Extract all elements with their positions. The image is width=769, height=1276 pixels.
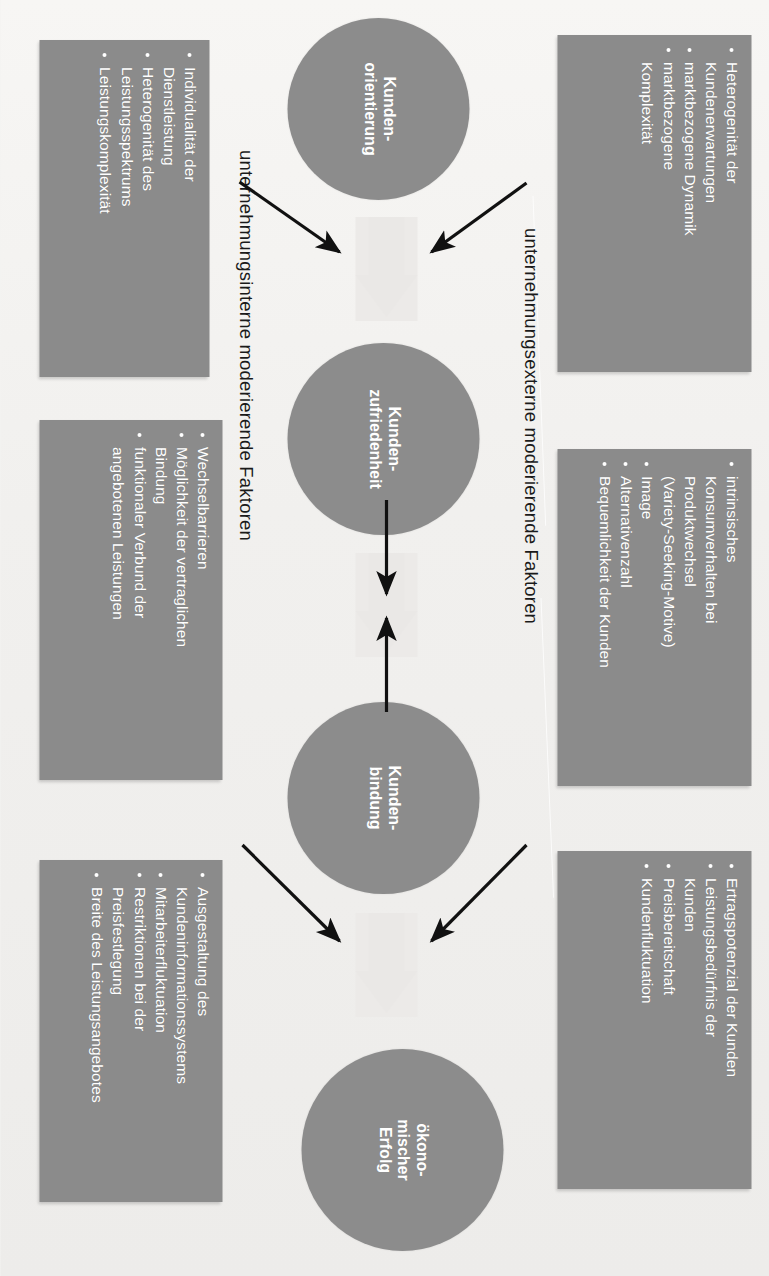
bullet-icon (187, 53, 191, 57)
factor-text: Heterogenität des (139, 67, 156, 191)
list-item: angebotenen Leistungen (107, 430, 127, 768)
circle-oekonomischer-erfolg: ökono- mischer Erfolg (301, 1049, 503, 1251)
factor-text: angebotenen Leistungen (109, 447, 126, 620)
factor-text: Leistungskomplexität (96, 67, 113, 214)
list-item: Heterogenität der (721, 45, 741, 360)
factor-text: Produktwechsel (681, 476, 698, 587)
block-arrow-bindung-to-erfolg (355, 913, 417, 1017)
bullet-icon (729, 864, 733, 868)
list-item: Ertragspotenzial der Kunden (721, 861, 741, 1177)
factor-text: Individualität der (181, 67, 198, 182)
block-arrow-shaft (368, 913, 404, 977)
list-item: Leistungskomplexität (94, 50, 114, 365)
list-item: Wechselbarrieren (192, 430, 212, 768)
block-arrow-head (355, 971, 417, 1013)
caption-internal-factors: unternehmungsinterne moderierende Faktor… (234, 150, 256, 541)
external-factor-list: Ertragspotenzial der Kunden Leistungsbed… (635, 861, 741, 1177)
factor-text: Image (638, 476, 655, 520)
factor-text: Alternativenzahl (617, 476, 634, 588)
bullet-icon (708, 864, 712, 868)
circle-label-line: zufriedenheit (364, 389, 383, 489)
factor-text: Wechselbarrieren (194, 447, 211, 570)
factor-text: Ertragspotenzial der Kunden (723, 878, 740, 1077)
circle-label-line: bindung (364, 766, 383, 831)
factor-text: Breite des Leistungsangebotes (88, 887, 105, 1103)
circle-label: Kunden- bindung (364, 766, 402, 831)
list-item: Möglichkeit der vertraglichen (171, 430, 191, 768)
block-arrow-shaft (368, 553, 404, 617)
bullet-icon (729, 462, 733, 466)
factor-text: Restriktionen bei der (131, 887, 148, 1031)
factor-text: (Variety-Seeking-Motive) (660, 476, 677, 648)
bullet-icon (666, 864, 670, 868)
list-item: Konsumverhalten bei (700, 459, 720, 774)
factor-text: Dienstleistung (160, 67, 177, 166)
external-factors-box-kundenorientierung: Heterogenität der Kundenerwartungen mark… (557, 35, 751, 372)
factor-text: Möglichkeit der vertraglichen (173, 447, 190, 647)
block-arrow-zufriedenheit-to-bindung (355, 553, 417, 657)
bullet-icon (602, 462, 606, 466)
list-item: marktbezogene (657, 45, 677, 360)
factor-text: Bindung (152, 447, 169, 505)
list-item: Kundenerwartungen (700, 45, 720, 360)
circle-kundenzufriedenheit: Kunden- zufriedenheit (287, 343, 479, 535)
list-item: Kundeninformationssystems (171, 870, 191, 1190)
list-item: Preisfestlegung (107, 870, 127, 1190)
bullet-icon (666, 48, 670, 52)
list-item: Dienstleistung (158, 50, 178, 365)
bullet-icon (687, 48, 691, 52)
list-item: Bequemlichkeit der Kunden (594, 459, 614, 774)
list-item: Leistungsspektrums (115, 50, 135, 365)
external-factors-box-kundenbindung: Ertragspotenzial der Kunden Leistungsbed… (557, 851, 751, 1189)
external-factors-box-kundenzufriedenheit: intrinsisches Konsumverhalten bei Produk… (557, 449, 751, 786)
circle-label: ökono- mischer Erfolg (374, 1119, 431, 1180)
factor-text: Kundeninformationssystems (173, 887, 190, 1084)
circle-label-line: ökono- (411, 1119, 430, 1180)
bullet-icon (94, 873, 98, 877)
factor-text: Leistungsspektrums (118, 67, 135, 207)
circle-kundenorientierung: Kunden- orientierung (287, 18, 469, 200)
factor-text: Kundenerwartungen (702, 62, 719, 203)
list-item: Individualität der (179, 50, 199, 365)
list-item: (Variety-Seeking-Motive) (657, 459, 677, 774)
bullet-icon (200, 873, 204, 877)
internal-factors-box-kundenbindung: Ausgestaltung des Kundeninformationssyst… (39, 860, 222, 1202)
circle-label-line: orientierung (359, 62, 378, 155)
list-item: Mitarbeiterfluktuation (150, 870, 170, 1190)
bullet-icon (137, 873, 141, 877)
diagram-canvas: Heterogenität der Kundenerwartungen mark… (0, 0, 769, 1276)
factor-text: Leistungsbedürfnis der (702, 878, 719, 1037)
list-item: Bindung (150, 430, 170, 768)
list-item: Alternativenzahl (615, 459, 635, 774)
list-item: Image (636, 459, 656, 774)
circle-label: Kunden- zufriedenheit (364, 389, 402, 489)
circle-label-line: Kunden- (378, 62, 397, 155)
list-item: Ausgestaltung des (192, 870, 212, 1190)
circle-label-line: Kunden- (383, 389, 402, 489)
external-factor-list: intrinsisches Konsumverhalten bei Produk… (593, 459, 741, 774)
list-item: Preisbereitschaft (657, 861, 677, 1177)
factor-text: Bequemlichkeit der Kunden (596, 476, 613, 668)
factor-text: marktbezogene Dynamik (681, 62, 698, 236)
internal-factor-list: Ausgestaltung des Kundeninformationssyst… (85, 870, 212, 1190)
factor-text: Kunden (681, 878, 698, 932)
bullet-icon (200, 433, 204, 437)
factor-text: Komplexität (638, 62, 655, 144)
internal-factor-list: Wechselbarrieren Möglichkeit der vertrag… (106, 430, 212, 768)
factor-text: Kundenfluktuation (638, 878, 655, 1004)
factor-text: intrinsisches (723, 476, 740, 563)
list-item: Heterogenität des (137, 50, 157, 365)
circle-label-line: mischer (393, 1119, 412, 1180)
list-item: Restriktionen bei der (128, 870, 148, 1190)
bullet-icon (644, 864, 648, 868)
list-item: intrinsisches (721, 459, 741, 774)
bullet-icon (137, 433, 141, 437)
circle-kundenbindung: Kunden- bindung (287, 702, 479, 894)
list-item: Kundenfluktuation (636, 861, 656, 1177)
internal-factors-box-kundenzufriedenheit: Wechselbarrieren Möglichkeit der vertrag… (39, 420, 222, 780)
internal-factors-box-kundenorientierung: Individualität der Dienstleistung Hetero… (39, 40, 209, 377)
bullet-icon (729, 48, 733, 52)
factor-text: marktbezogene (660, 62, 677, 170)
factor-text: Preisfestlegung (109, 887, 126, 995)
factor-text: funktionaler Verbund der (131, 447, 148, 618)
